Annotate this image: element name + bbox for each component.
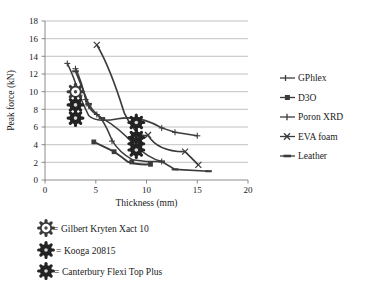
legend-label: Leather bbox=[298, 151, 328, 161]
legend-item-eva-foam[interactable]: EVA foam bbox=[280, 132, 338, 142]
chart-figure: 18 16 14 12 10 8 6 4 2 0 0 5 10 15 20 Th… bbox=[0, 0, 367, 285]
x-tick-label: 5 bbox=[94, 185, 99, 195]
y-tick-label: 12 bbox=[29, 69, 38, 79]
note-label: Canterbury Flexi Top Plus bbox=[62, 267, 163, 277]
y-tick-label: 4 bbox=[34, 140, 39, 150]
x-tick-label: 10 bbox=[142, 185, 152, 195]
y-tick-label: 16 bbox=[29, 34, 39, 44]
y-tick-label: 10 bbox=[29, 87, 39, 97]
legend-item-poron-xrd[interactable]: Poron XRD bbox=[280, 112, 343, 122]
y-axis-title: Peak force (kN) bbox=[6, 70, 17, 131]
annotated-point-canterbury-flexi-top-plus bbox=[129, 143, 144, 158]
note-label: Gilbert Kryten Xact 10 bbox=[61, 224, 149, 234]
annotated-point-canterbury-flexi-top-plus bbox=[68, 111, 83, 126]
x-axis-title: Thickness (mm) bbox=[115, 198, 177, 209]
y-tick-label: 0 bbox=[34, 175, 39, 185]
x-tick-labels: 0 5 10 15 20 bbox=[43, 185, 253, 195]
note-equals: = bbox=[56, 246, 61, 256]
x-tick-label: 20 bbox=[244, 185, 254, 195]
note-item-kooga-20815: = Kooga 20815 bbox=[39, 243, 116, 258]
x-tick-label: 15 bbox=[193, 185, 203, 195]
legend-label: Poron XRD bbox=[298, 112, 343, 122]
y-tick-label: 8 bbox=[34, 105, 39, 115]
legend-item-d3o[interactable]: D3O bbox=[280, 93, 317, 103]
gear-hollow-icon bbox=[39, 221, 54, 236]
y-tick-marks bbox=[42, 21, 46, 180]
chart-notes: = Gilbert Kryten Xact 10 = Kooga 20815 =… bbox=[39, 221, 163, 279]
y-tick-label: 14 bbox=[29, 52, 39, 62]
note-item-canterbury-flexi-top-plus: = Canterbury Flexi Top Plus bbox=[39, 264, 163, 279]
annotated-point-kooga-20815 bbox=[129, 115, 144, 130]
x-tick-label: 0 bbox=[43, 185, 48, 195]
legend-item-leather[interactable]: Leather bbox=[280, 151, 328, 161]
y-tick-label: 6 bbox=[34, 122, 39, 132]
gear-solid-icon bbox=[39, 264, 54, 279]
note-label: Kooga 20815 bbox=[64, 246, 116, 256]
y-tick-label: 18 bbox=[29, 16, 39, 26]
chart-legend: GPhlex D3O Poron XRD EVA foam L bbox=[280, 73, 343, 161]
legend-label: EVA foam bbox=[298, 132, 338, 142]
y-tick-label: 2 bbox=[34, 158, 39, 168]
y-tick-labels: 18 16 14 12 10 8 6 4 2 0 bbox=[29, 16, 39, 185]
legend-item-gphlex[interactable]: GPhlex bbox=[280, 73, 327, 83]
note-equals: = bbox=[54, 267, 59, 277]
x-tick-marks bbox=[45, 180, 248, 184]
gear-solid-icon bbox=[39, 243, 54, 258]
note-equals: = bbox=[53, 224, 58, 234]
square-marker-icon bbox=[285, 95, 290, 100]
chart-svg: 18 16 14 12 10 8 6 4 2 0 0 5 10 15 20 Th… bbox=[0, 0, 367, 285]
note-item-gilbert-kryten-xact-10: = Gilbert Kryten Xact 10 bbox=[39, 221, 149, 236]
series-poron-xrd bbox=[73, 66, 165, 165]
legend-label: GPhlex bbox=[298, 73, 327, 83]
legend-label: D3O bbox=[298, 93, 317, 103]
